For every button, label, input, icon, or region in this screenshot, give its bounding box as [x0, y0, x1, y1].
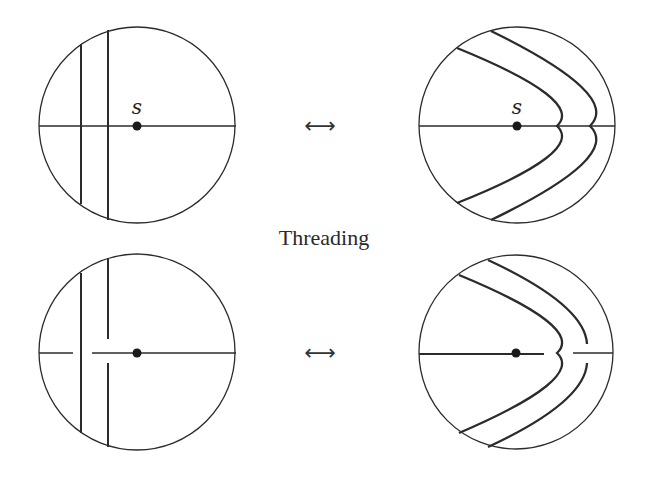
- panel-bottom-left: [39, 254, 236, 450]
- point-s: [512, 349, 521, 358]
- caption-threading: Threading: [279, 225, 369, 250]
- panel-top-left: [39, 27, 236, 223]
- panel-top-right: [419, 27, 615, 223]
- panel-bottom-right: [419, 255, 613, 449]
- point-s-label-top-right: s: [512, 95, 522, 119]
- equivalence-arrow-bottom: ⟷: [304, 340, 336, 365]
- point-s: [133, 349, 142, 358]
- equivalence-arrow-top: ⟷: [304, 113, 336, 138]
- point-s-label-top-left: s: [132, 95, 142, 119]
- point-s: [513, 122, 522, 131]
- arc-outer-lower: [488, 363, 587, 447]
- threading-diagram: s s ⟷ ⟷ Threading: [0, 0, 649, 485]
- point-s: [133, 122, 142, 131]
